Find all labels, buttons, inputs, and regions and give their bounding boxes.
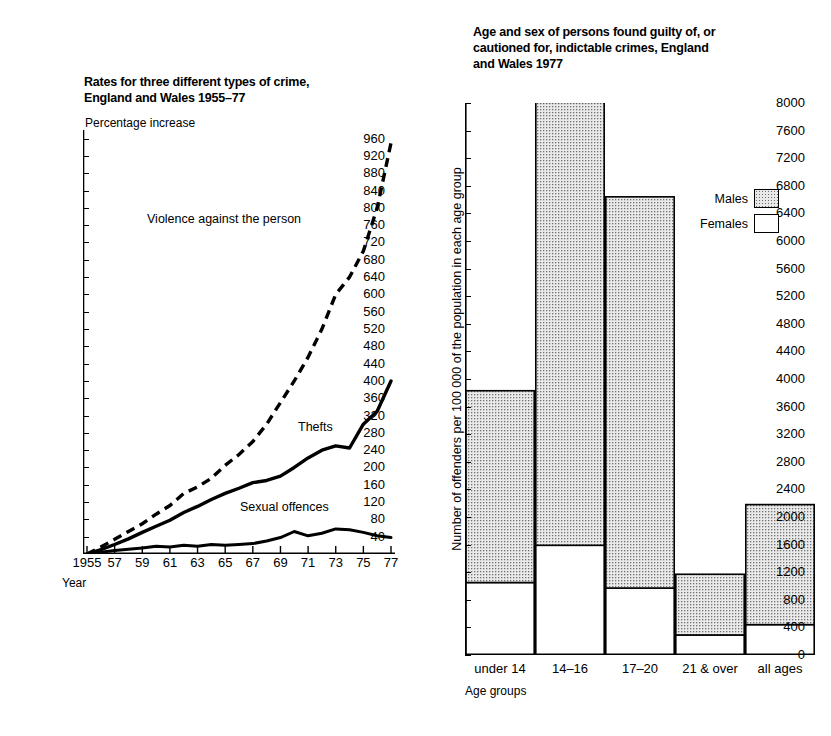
left-chart-y-tick-label: 600	[341, 287, 385, 300]
right-chart-y-tick-label: 800	[761, 593, 805, 606]
left-chart-y-tick-mark	[83, 398, 89, 399]
right-chart-y-tick-label: 7200	[761, 151, 805, 164]
bar-segment-females	[676, 635, 744, 655]
left-chart-y-tick-label: 640	[341, 270, 385, 283]
right-chart-y-tick-label: 7600	[761, 124, 805, 137]
left-chart-y-tick-mark	[83, 485, 89, 486]
right-chart-y-tick-mark	[465, 296, 471, 297]
right-chart-x-tick-label: 17–20	[605, 662, 675, 676]
right-chart-y-tick-mark	[465, 545, 471, 546]
right-chart-y-tick-mark	[465, 241, 471, 242]
right-chart-y-tick-mark	[465, 407, 471, 408]
bar-segment-males	[676, 574, 744, 635]
left-chart-title: Rates for three different types of crime…	[84, 74, 384, 106]
right-chart-y-tick-label: 5200	[761, 289, 805, 302]
right-chart-y-tick-label: 2800	[761, 455, 805, 468]
bar-segment-females	[606, 588, 674, 655]
left-chart-y-tick-mark	[83, 433, 89, 434]
legend-label: Males	[715, 192, 748, 206]
left-chart-plot-area: 4080120160200240280320360400440480520560…	[83, 130, 395, 554]
left-chart-y-tick-label: 520	[341, 322, 385, 335]
left-chart-y-tick-mark	[83, 139, 89, 140]
bar-group	[676, 574, 744, 655]
left-chart-line: Rates for three different types of crime…	[0, 0, 420, 736]
right-chart-y-tick-mark	[465, 462, 471, 463]
right-chart-y-tick-label: 4800	[761, 317, 805, 330]
bar-segment-males	[466, 391, 534, 583]
left-chart-y-tick-label: 960	[341, 132, 385, 145]
right-chart-x-tick-label: all ages	[745, 662, 815, 676]
left-chart-y-tick-label: 680	[341, 253, 385, 266]
right-chart-y-tick-mark	[465, 131, 471, 132]
right-chart-y-tick-label: 4400	[761, 344, 805, 357]
left-chart-y-tick-label: 160	[341, 478, 385, 491]
left-chart-y-tick-mark	[83, 346, 89, 347]
right-chart-y-tick-label: 1600	[761, 538, 805, 551]
left-chart-y-tick-mark	[83, 416, 89, 417]
right-chart-y-tick-label: 2000	[761, 510, 805, 523]
left-chart-y-tick-mark	[83, 519, 89, 520]
left-chart-y-tick-label: 560	[341, 305, 385, 318]
right-chart-y-tick-label: 2400	[761, 482, 805, 495]
right-chart-y-tick-mark	[465, 379, 471, 380]
left-chart-x-tick-labels: 19555759616365676971737577	[22, 556, 412, 574]
label-sexual-offences: Sexual offences	[240, 500, 329, 514]
left-chart-y-tick-label: 240	[341, 443, 385, 456]
left-chart-x-tick-label: 77	[371, 556, 411, 570]
right-chart-y-tick-mark	[465, 103, 471, 104]
left-chart-y-tick-mark	[83, 208, 89, 209]
left-chart-y-tick-label: 40	[341, 530, 385, 543]
right-chart-y-tick-label: 8000	[761, 96, 805, 109]
left-chart-y-tick-mark	[83, 329, 89, 330]
right-chart-y-tick-mark	[465, 186, 471, 187]
right-chart-y-tick-mark	[465, 213, 471, 214]
left-chart-y-tick-label: 280	[341, 426, 385, 439]
right-chart-y-tick-label: 400	[761, 620, 805, 633]
left-chart-y-tick-label: 120	[341, 495, 385, 508]
left-chart-y-tick-mark	[83, 502, 89, 503]
left-chart-y-tick-mark	[83, 312, 89, 313]
left-chart-y-tick-mark	[83, 364, 89, 365]
bar-segment-females	[536, 545, 604, 655]
left-chart-y-tick-mark	[83, 467, 89, 468]
right-chart-y-tick-mark	[465, 489, 471, 490]
left-chart-y-tick-label: 920	[341, 149, 385, 162]
right-chart-y-axis-label: Number of offenders per 100 000 of the p…	[450, 149, 464, 569]
right-chart-y-tick-label: 5600	[761, 262, 805, 275]
left-chart-y-tick-label: 360	[341, 391, 385, 404]
label-thefts: Thefts	[298, 420, 333, 434]
right-chart-y-tick-mark	[465, 269, 471, 270]
right-chart-y-tick-mark	[465, 600, 471, 601]
left-chart-x-axis-label: Year	[62, 576, 86, 590]
right-chart-x-tick-label: under 14	[465, 662, 535, 676]
right-chart-y-tick-label: 1200	[761, 565, 805, 578]
left-chart-y-tick-mark	[83, 156, 89, 157]
left-chart-y-tick-label: 80	[341, 512, 385, 525]
right-chart-y-tick-mark	[465, 434, 471, 435]
left-chart-y-tick-mark	[83, 294, 89, 295]
bar-segment-females	[466, 583, 534, 655]
right-chart-x-tick-label: 14–16	[535, 662, 605, 676]
right-chart-plot-area: 0400800120016002000240028003200360040004…	[465, 103, 815, 655]
figure-page: Rates for three different types of crime…	[0, 0, 831, 736]
bar-segment-males	[536, 103, 604, 545]
right-chart-y-tick-label: 3200	[761, 427, 805, 440]
left-chart-y-tick-mark	[83, 225, 89, 226]
left-chart-y-axis-label: Percentage increase	[85, 116, 195, 130]
bar-group	[466, 391, 534, 655]
left-chart-y-tick-mark	[83, 277, 89, 278]
right-chart-bar: Age and sex of persons found guilty of, …	[415, 0, 831, 736]
right-chart-y-tick-mark	[465, 158, 471, 159]
left-chart-y-tick-mark	[83, 537, 89, 538]
legend-swatch-stippled	[754, 189, 779, 208]
legend-label: Females	[700, 217, 748, 231]
right-chart-y-tick-mark	[465, 351, 471, 352]
right-chart-x-axis-label: Age groups	[465, 684, 526, 698]
left-chart-y-tick-mark	[83, 260, 89, 261]
left-chart-y-tick-mark	[83, 173, 89, 174]
left-chart-y-tick-mark	[83, 191, 89, 192]
left-chart-y-tick-label: 720	[341, 235, 385, 248]
left-chart-y-tick-label: 480	[341, 339, 385, 352]
left-chart-y-tick-label: 400	[341, 374, 385, 387]
right-chart-y-tick-label: 0	[761, 648, 805, 661]
